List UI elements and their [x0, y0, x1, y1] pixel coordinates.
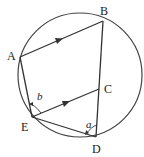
label-a: A — [7, 49, 16, 63]
circle-geometry-diagram: A B C D E a b — [0, 0, 144, 157]
segment-ae — [20, 57, 32, 117]
label-c: C — [104, 82, 112, 96]
label-e: E — [21, 120, 28, 134]
label-b: B — [100, 4, 108, 18]
segment-bd — [96, 21, 103, 137]
parallel-arrow-icon-ab — [55, 38, 63, 44]
parallel-arrow-icon-ec — [62, 101, 70, 107]
angle-label-b: b — [37, 90, 43, 102]
label-d: D — [92, 142, 101, 156]
angle-label-a: a — [86, 118, 92, 130]
